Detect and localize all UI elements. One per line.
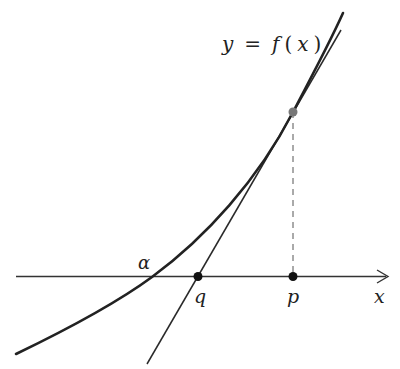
- curve-label: y = f ( x ): [221, 32, 321, 56]
- alpha-label: α: [138, 252, 150, 273]
- newton-method-diagram: y = f ( x ) α q p x: [0, 0, 400, 369]
- point-p: [289, 272, 298, 281]
- tangent-line: [147, 30, 341, 364]
- point-q: [194, 272, 203, 281]
- tangent-point: [289, 108, 298, 117]
- x-axis-label: x: [374, 285, 385, 307]
- p-label: p: [287, 285, 299, 307]
- q-label: q: [194, 285, 206, 307]
